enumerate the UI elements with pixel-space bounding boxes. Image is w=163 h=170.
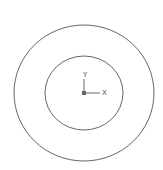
origin-marker-icon [82,91,86,95]
y-axis-label: Y [82,71,88,79]
drawing-canvas: Y X [0,0,163,170]
ucs-axis-icon: Y X [82,71,107,97]
x-axis-label: X [102,89,107,97]
